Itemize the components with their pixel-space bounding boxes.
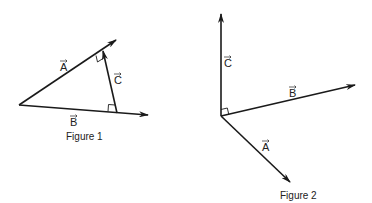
label-b-fig1: B	[70, 116, 77, 128]
label-a-fig2: A	[262, 141, 270, 153]
right-angle-marker-bottom	[108, 105, 115, 112]
label-a-fig1: A	[60, 61, 68, 73]
figure-1: A B C Figure 1	[19, 40, 148, 142]
diagram-canvas: A B C Figure 1 C B A Figure 2	[0, 0, 372, 203]
vector-b-fig2	[221, 85, 355, 116]
vector-b-fig1	[19, 105, 148, 115]
right-angle-marker-fig2	[221, 108, 229, 114]
caption-figure-2: Figure 2	[280, 190, 317, 201]
right-angle-marker-top	[96, 56, 105, 63]
vector-a-fig1	[19, 40, 116, 105]
label-c-fig1: C	[114, 74, 122, 86]
vector-a-fig2	[221, 116, 290, 182]
label-c-fig2: C	[224, 57, 232, 69]
figure-2: C B A Figure 2	[221, 14, 355, 201]
label-b-fig2: B	[289, 87, 296, 99]
caption-figure-1: Figure 1	[66, 131, 103, 142]
